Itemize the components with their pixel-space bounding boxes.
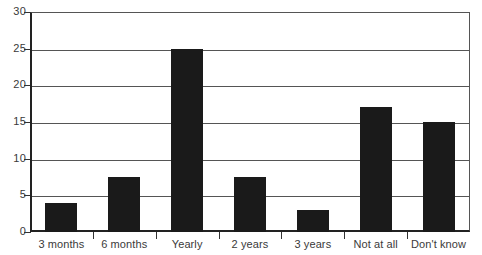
bar-slot — [344, 12, 407, 232]
bar-slot — [281, 12, 344, 232]
bar[interactable] — [423, 122, 455, 232]
bar-slot — [407, 12, 470, 232]
bar[interactable] — [360, 107, 392, 232]
bar[interactable] — [234, 177, 266, 232]
bar[interactable] — [171, 49, 203, 232]
x-tick-mark — [93, 232, 94, 239]
bar-slot — [30, 12, 93, 232]
y-axis: 30 25 20 15 10 5 0 — [0, 0, 26, 255]
x-tick-mark — [344, 232, 345, 239]
x-tick-mark — [219, 232, 220, 239]
x-axis: 3 months6 monthsYearly2 years3 yearsNot … — [30, 238, 470, 255]
y-tick-label: 30 — [2, 6, 26, 17]
x-tick-mark — [407, 232, 408, 239]
x-tick-mark — [156, 232, 157, 239]
y-tick-label: 25 — [2, 43, 26, 54]
bar-slot — [219, 12, 282, 232]
x-tick-mark — [281, 232, 282, 239]
y-tick-label: 5 — [2, 189, 26, 200]
bar[interactable] — [108, 177, 140, 232]
y-tick-label: 20 — [2, 79, 26, 90]
bar-chart: 30 25 20 15 10 5 0 3 months6 monthsYearl… — [0, 0, 482, 255]
x-axis-tick-marks — [30, 232, 470, 240]
y-tick-label: 10 — [2, 153, 26, 164]
bar[interactable] — [45, 203, 77, 232]
bars-layer — [30, 12, 470, 232]
bar-slot — [93, 12, 156, 232]
y-tick-label: 15 — [2, 116, 26, 127]
bar-slot — [156, 12, 219, 232]
bar[interactable] — [297, 210, 329, 232]
y-tick-label: 0 — [2, 226, 26, 237]
